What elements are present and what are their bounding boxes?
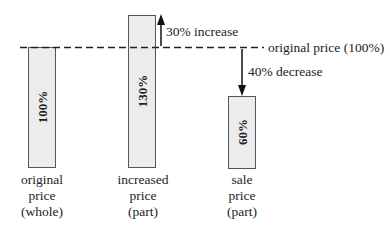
- bar-caption: increased: [118, 172, 169, 187]
- bar-caption: price: [130, 188, 157, 203]
- bar-caption: price: [29, 188, 56, 203]
- bar-caption: sale: [232, 172, 253, 187]
- decrease-label: 40% decrease: [248, 64, 323, 79]
- bar-caption: (part): [128, 204, 158, 219]
- bar-caption: original: [21, 172, 63, 187]
- bar-caption: (part): [227, 204, 257, 219]
- bar-caption: (whole): [21, 204, 63, 219]
- bar-value-label: 60%: [235, 119, 250, 145]
- bar-value-label: 130%: [135, 75, 150, 108]
- bar-caption: price: [229, 188, 256, 203]
- increase-label: 30% increase: [166, 24, 238, 39]
- percent-change-diagram: original price (100%) 30% increase 40% d…: [0, 0, 390, 231]
- arrow-down-icon: [238, 85, 246, 96]
- reference-line-label: original price (100%): [268, 40, 384, 55]
- arrow-up-icon: [157, 14, 165, 25]
- bar-value-label: 100%: [35, 91, 50, 124]
